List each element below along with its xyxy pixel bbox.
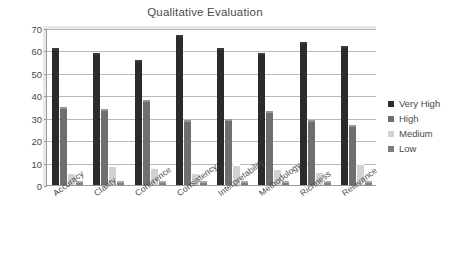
legend-swatch-icon: [388, 131, 394, 137]
bar[interactable]: [300, 44, 307, 185]
bar-fill: [143, 102, 150, 185]
y-axis-tick-label: 20: [31, 136, 42, 147]
bar-group: [47, 29, 88, 185]
y-axis-tick-label: 60: [31, 46, 42, 57]
chart-legend: Very HighHighMediumLow: [388, 96, 440, 156]
bar-group: [336, 29, 377, 185]
bar-fill: [365, 183, 372, 185]
y-axis-tick-label: 30: [31, 113, 42, 124]
bar-group: [212, 29, 253, 185]
legend-label: Low: [399, 143, 416, 154]
bar-fill: [184, 122, 191, 185]
legend-item[interactable]: High: [388, 111, 440, 126]
bar-fill: [341, 48, 348, 185]
bar-group: [130, 29, 171, 185]
y-axis-tick-label: 70: [31, 24, 42, 35]
bar-fill: [60, 109, 67, 185]
legend-label: High: [399, 113, 419, 124]
bar[interactable]: [324, 183, 331, 185]
bar-fill: [117, 183, 124, 185]
bar[interactable]: [117, 183, 124, 185]
bar-fill: [135, 62, 142, 185]
bar[interactable]: [282, 183, 289, 185]
bar[interactable]: [365, 183, 372, 185]
bar-fill: [200, 183, 207, 185]
bar-group: [295, 29, 336, 185]
bar-fill: [176, 37, 183, 185]
bar[interactable]: [93, 55, 100, 185]
bar-fill: [101, 111, 108, 185]
legend-item[interactable]: Low: [388, 141, 440, 156]
bar-fill: [282, 183, 289, 185]
bar-fill: [225, 121, 232, 185]
bar[interactable]: [200, 183, 207, 185]
legend-swatch-icon: [388, 116, 394, 122]
bar-group: [171, 29, 212, 185]
bar[interactable]: [143, 102, 150, 185]
bar[interactable]: [60, 109, 67, 185]
bar[interactable]: [159, 183, 166, 185]
bar-fill: [241, 183, 248, 185]
bar[interactable]: [52, 50, 59, 185]
bar-fill: [159, 183, 166, 185]
legend-swatch-icon: [388, 101, 394, 107]
y-axis-tick-label: 50: [31, 68, 42, 79]
bar-group: [88, 29, 129, 185]
qualitative-evaluation-bar-chart: Qualitative Evaluation 010203040506070 A…: [0, 0, 471, 257]
bar[interactable]: [225, 121, 232, 185]
bar[interactable]: [266, 113, 273, 185]
bar-fill: [76, 183, 83, 185]
bar-fill: [308, 122, 315, 185]
legend-label: Very High: [399, 98, 440, 109]
bar-fill: [324, 183, 331, 185]
bar[interactable]: [135, 62, 142, 185]
bar[interactable]: [349, 127, 356, 185]
bar-fill: [217, 50, 224, 185]
chart-title: Qualitative Evaluation: [0, 6, 410, 18]
legend-item[interactable]: Very High: [388, 96, 440, 111]
legend-swatch-icon: [388, 146, 394, 152]
bar-fill: [349, 127, 356, 185]
legend-item[interactable]: Medium: [388, 126, 440, 141]
bar[interactable]: [217, 50, 224, 185]
bar[interactable]: [184, 122, 191, 185]
legend-label: Medium: [399, 128, 433, 139]
y-axis-tick-label: 0: [37, 181, 42, 192]
bar[interactable]: [176, 37, 183, 185]
y-axis-tick-label: 10: [31, 158, 42, 169]
y-axis-tick-mark: [44, 186, 47, 187]
y-axis-tick-label: 40: [31, 91, 42, 102]
bar[interactable]: [341, 48, 348, 185]
bar[interactable]: [76, 183, 83, 185]
bar[interactable]: [101, 111, 108, 185]
bar-fill: [52, 50, 59, 185]
bar-fill: [266, 113, 273, 185]
bar-fill: [300, 44, 307, 185]
bar[interactable]: [308, 122, 315, 185]
bar[interactable]: [241, 183, 248, 185]
bar-fill: [93, 55, 100, 185]
